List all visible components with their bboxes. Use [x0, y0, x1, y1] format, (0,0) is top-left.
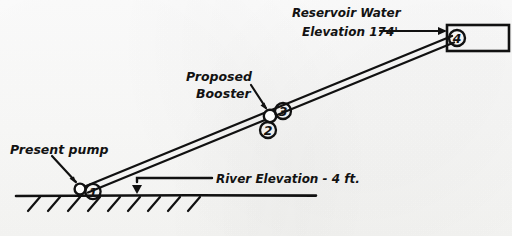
- reservoir-elevation-arrowhead: [438, 27, 447, 35]
- river-elevation-leader: [132, 178, 212, 194]
- pump-symbol-circle: [75, 184, 86, 195]
- reservoir-label-line2: Elevation 174': [302, 25, 398, 39]
- proposed-booster-leader: [251, 85, 267, 110]
- pipeline-schematic: 1 3 2 4 Present pump Proposed Booster Re…: [0, 0, 512, 236]
- river-elevation-label: River Elevation - 4 ft.: [216, 172, 360, 186]
- present-pump-leader: [52, 156, 76, 184]
- reservoir-label-line1: Reservoir Water: [292, 6, 402, 20]
- node-4-label: 4: [452, 31, 462, 46]
- node-3-label: 3: [279, 104, 288, 119]
- river-elevation-arrowhead: [132, 185, 142, 194]
- node-1-label: 1: [89, 185, 98, 200]
- node-2-label: 2: [264, 123, 273, 138]
- ground-line: [16, 195, 316, 196]
- river-elevation-leader-line: [137, 178, 212, 182]
- ground-hatching: [28, 197, 200, 211]
- present-pump-label: Present pump: [10, 142, 108, 157]
- ground-line-group: [16, 195, 316, 211]
- node-reservoir-inlet: 4: [449, 30, 465, 46]
- proposed-booster-label-line2: Booster: [196, 86, 252, 101]
- proposed-booster-label-line1: Proposed: [186, 69, 253, 84]
